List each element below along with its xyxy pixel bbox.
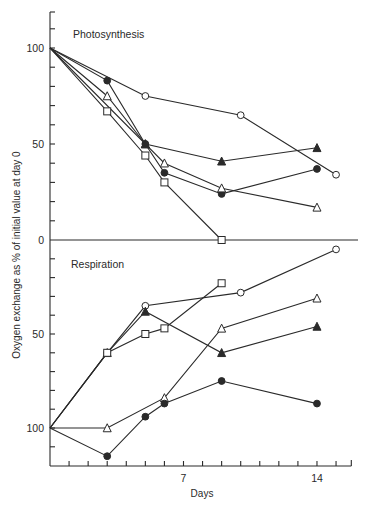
open-square-marker	[161, 325, 168, 332]
open-circle-marker	[142, 93, 149, 100]
filled-circle-marker	[218, 378, 225, 385]
series-filled-circle	[50, 48, 320, 197]
filled-circle-marker	[161, 169, 168, 176]
filled-triangle-marker	[313, 144, 321, 152]
x-axis-label: Days	[191, 488, 214, 499]
open-circle-marker	[237, 289, 244, 296]
open-square-marker	[218, 237, 225, 244]
series-line	[50, 48, 336, 175]
series-filled-circle	[50, 378, 320, 460]
series-line	[50, 48, 222, 240]
open-circle-marker	[333, 246, 340, 253]
series-open-triangle	[50, 294, 321, 432]
open-square-marker	[104, 349, 111, 356]
series-line	[50, 48, 317, 161]
filled-triangle-marker	[313, 322, 321, 330]
series-line	[50, 48, 317, 207]
open-square-marker	[218, 280, 225, 287]
open-square-marker	[161, 179, 168, 186]
open-circle-marker	[333, 171, 340, 178]
open-triangle-marker	[218, 324, 226, 332]
series-open-circle	[50, 246, 339, 428]
y-tick-label: 50	[32, 138, 44, 150]
filled-circle-marker	[104, 453, 111, 460]
series-filled-triangle	[50, 48, 321, 165]
oxygen-exchange-chart: 05010050100714 Photosynthesis Respiratio…	[0, 0, 371, 508]
series-line	[50, 381, 317, 456]
series-line	[50, 311, 317, 428]
y-tick-label: 100	[26, 422, 44, 434]
open-square-marker	[142, 152, 149, 159]
open-triangle-marker	[218, 184, 226, 192]
filled-circle-marker	[161, 400, 168, 407]
x-tick-label: 7	[181, 472, 187, 484]
open-square-marker	[142, 331, 149, 338]
y-axis-label: Oxygen exchange as % of initial value at…	[11, 151, 22, 359]
x-tick-label: 14	[311, 472, 323, 484]
series-open-square	[50, 280, 225, 428]
series-open-circle	[50, 48, 339, 178]
y-tick-label: 0	[38, 234, 44, 246]
series-filled-triangle	[50, 307, 321, 428]
filled-circle-marker	[104, 77, 111, 84]
filled-circle-marker	[142, 413, 149, 420]
series-open-square	[50, 48, 225, 244]
axes: 05010050100714	[26, 12, 358, 484]
series-open-triangle	[50, 48, 321, 211]
open-triangle-marker	[313, 294, 321, 302]
open-square-marker	[104, 108, 111, 115]
filled-circle-marker	[314, 166, 321, 173]
data-series	[50, 48, 339, 460]
open-circle-marker	[237, 112, 244, 119]
series-line	[50, 298, 317, 428]
panel-title-photosynthesis: Photosynthesis	[73, 28, 144, 40]
series-line	[50, 283, 222, 428]
y-tick-label: 100	[26, 42, 44, 54]
y-tick-label: 50	[32, 328, 44, 340]
series-line	[50, 249, 336, 428]
panel-title-respiration: Respiration	[71, 258, 124, 270]
filled-circle-marker	[314, 400, 321, 407]
